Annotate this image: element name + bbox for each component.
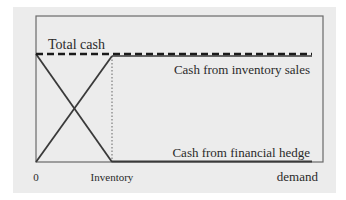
demand-axis-label: demand	[277, 169, 319, 184]
inventory-sales-label: Cash from inventory sales	[174, 62, 310, 77]
origin-tick-label: 0	[33, 171, 39, 183]
inventory-tick-label: Inventory	[91, 171, 134, 183]
diagram-canvas: Total cash Cash from inventory sales Cas…	[0, 0, 346, 200]
payoff-diagram: Total cash Cash from inventory sales Cas…	[0, 0, 346, 200]
background-panel	[13, 7, 336, 193]
total-cash-label: Total cash	[48, 37, 105, 52]
financial-hedge-label: Cash from financial hedge	[172, 145, 310, 160]
